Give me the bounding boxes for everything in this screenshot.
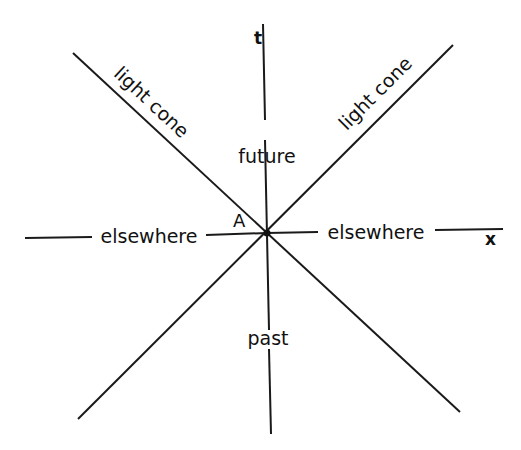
elsewhere-left-label: elsewhere [101,225,198,247]
past-label: past [247,327,288,349]
t-axis-label: t [254,28,262,48]
x-axis-left-outer [25,237,92,238]
light-cone-left-label: light cone [110,62,194,142]
event-label: A [233,210,246,231]
x-axis-label: x [485,229,496,249]
x-axis-left-inner [206,233,267,235]
x-axis-right-inner [267,232,318,233]
future-label: future [238,145,295,167]
event-point-a [264,230,271,237]
light-cone-diagram: t x A future past elsewhere elsewhere li… [0,0,521,450]
elsewhere-right-label: elsewhere [328,221,425,243]
t-axis-upper [263,24,265,120]
t-axis-lower [269,349,271,434]
